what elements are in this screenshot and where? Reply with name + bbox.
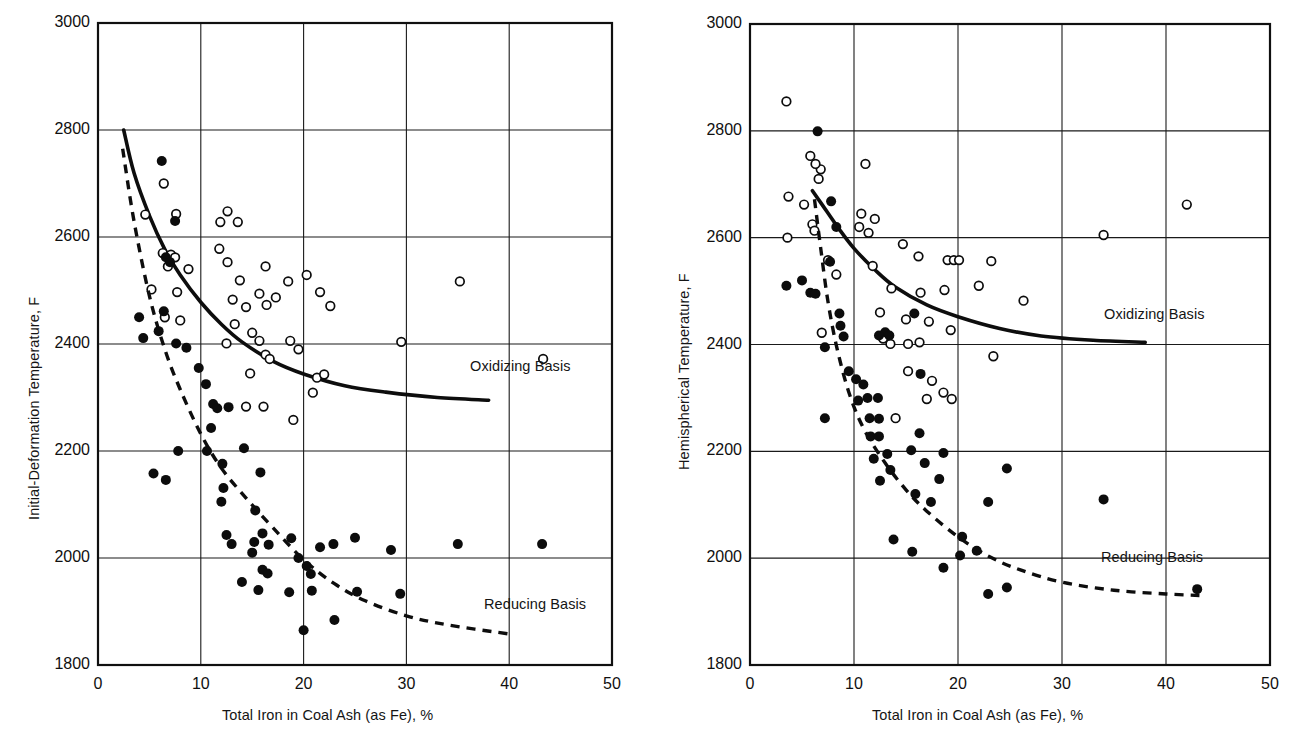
data-point-filled bbox=[395, 589, 405, 599]
data-point-filled bbox=[874, 431, 884, 441]
x-tick-label: 50 bbox=[1250, 675, 1290, 693]
data-point-filled bbox=[781, 281, 791, 291]
data-point-filled bbox=[249, 537, 259, 547]
data-point-filled bbox=[972, 546, 982, 556]
data-point-open bbox=[246, 369, 255, 378]
data-point-filled bbox=[255, 467, 265, 477]
y-axis-label-left: Initial-Deformation Temperature, F bbox=[26, 297, 42, 520]
data-point-open bbox=[259, 402, 268, 411]
data-point-filled bbox=[237, 577, 247, 587]
chart-panel-left: Initial-Deformation Temperature, F Total… bbox=[0, 0, 648, 746]
data-point-filled bbox=[875, 476, 885, 486]
data-point-filled bbox=[863, 393, 873, 403]
data-point-open bbox=[159, 179, 168, 188]
data-point-open bbox=[814, 175, 823, 184]
data-point-filled bbox=[1002, 463, 1012, 473]
data-point-open bbox=[987, 257, 996, 266]
data-point-filled bbox=[957, 532, 967, 542]
data-point-filled bbox=[1099, 494, 1109, 504]
data-point-open bbox=[316, 288, 325, 297]
data-point-filled bbox=[853, 396, 863, 406]
data-point-filled bbox=[386, 545, 396, 555]
x-tick-label: 50 bbox=[592, 675, 632, 693]
data-point-open bbox=[940, 286, 949, 295]
data-point-filled bbox=[910, 489, 920, 499]
data-point-open bbox=[783, 233, 792, 242]
data-point-open bbox=[255, 289, 264, 298]
data-point-filled bbox=[202, 446, 212, 456]
scatter-plot-right bbox=[647, 0, 1295, 746]
data-point-filled bbox=[869, 454, 879, 464]
data-point-open bbox=[899, 240, 908, 249]
data-point-filled bbox=[253, 585, 263, 595]
data-point-filled bbox=[826, 196, 836, 206]
data-point-filled bbox=[884, 330, 894, 340]
data-point-open bbox=[891, 414, 900, 423]
data-point-open bbox=[284, 277, 293, 286]
y-tick-label: 2400 bbox=[680, 335, 742, 353]
data-point-filled bbox=[284, 587, 294, 597]
x-tick-label: 30 bbox=[386, 675, 426, 693]
data-point-filled bbox=[218, 483, 228, 493]
data-point-open bbox=[946, 326, 955, 335]
chart-panel-right bbox=[647, 0, 1295, 746]
data-point-open bbox=[989, 352, 998, 361]
data-point-filled bbox=[328, 539, 338, 549]
y-tick-label: 2800 bbox=[28, 120, 90, 138]
data-point-open bbox=[902, 315, 911, 324]
data-point-filled bbox=[882, 449, 892, 459]
data-point-open bbox=[236, 276, 245, 285]
x-tick-label: 20 bbox=[938, 675, 978, 693]
y-tick-label: 2200 bbox=[28, 441, 90, 459]
data-point-open bbox=[242, 303, 251, 312]
data-point-filled bbox=[834, 309, 844, 319]
data-point-filled bbox=[889, 534, 899, 544]
data-point-filled bbox=[173, 446, 183, 456]
data-point-open bbox=[887, 284, 896, 293]
data-point-open bbox=[456, 277, 465, 286]
data-point-filled bbox=[1192, 584, 1202, 594]
data-point-open bbox=[811, 160, 820, 169]
data-point-open bbox=[915, 338, 924, 347]
data-point-filled bbox=[154, 326, 164, 336]
data-point-filled bbox=[212, 403, 222, 413]
data-point-filled bbox=[825, 257, 835, 267]
data-point-open bbox=[326, 302, 335, 311]
data-point-open bbox=[262, 301, 271, 310]
data-point-filled bbox=[329, 615, 339, 625]
data-point-filled bbox=[453, 539, 463, 549]
data-point-filled bbox=[938, 448, 948, 458]
data-point-open bbox=[1183, 200, 1192, 209]
data-point-filled bbox=[257, 528, 267, 538]
data-point-filled bbox=[264, 540, 274, 550]
data-point-open bbox=[294, 345, 303, 354]
data-point-open bbox=[222, 339, 231, 348]
data-point-open bbox=[817, 328, 826, 337]
data-point-filled bbox=[820, 342, 830, 352]
series-annotation-reducing-left: Reducing Basis bbox=[484, 596, 586, 612]
data-point-open bbox=[871, 215, 880, 224]
x-tick-label: 40 bbox=[1146, 675, 1186, 693]
data-point-open bbox=[223, 207, 232, 216]
data-point-filled bbox=[916, 369, 926, 379]
data-point-filled bbox=[1002, 583, 1012, 593]
data-point-open bbox=[302, 271, 311, 280]
data-point-filled bbox=[286, 533, 296, 543]
data-point-filled bbox=[227, 539, 237, 549]
y-tick-label: 2400 bbox=[28, 334, 90, 352]
data-point-filled bbox=[181, 343, 191, 353]
data-point-filled bbox=[250, 505, 260, 515]
y-tick-label: 2600 bbox=[28, 227, 90, 245]
data-point-filled bbox=[813, 126, 823, 136]
x-tick-label: 0 bbox=[730, 675, 770, 693]
data-point-filled bbox=[811, 289, 821, 299]
x-axis-label-left: Total Iron in Coal Ash (as Fe), % bbox=[222, 707, 433, 723]
data-point-filled bbox=[350, 533, 360, 543]
data-point-open bbox=[855, 223, 864, 232]
y-tick-label: 1800 bbox=[680, 655, 742, 673]
data-point-open bbox=[1099, 231, 1108, 240]
series-annotation-oxidizing-left: Oxidizing Basis bbox=[470, 358, 571, 374]
data-point-filled bbox=[138, 333, 148, 343]
x-tick-label: 10 bbox=[181, 675, 221, 693]
data-point-open bbox=[904, 367, 913, 376]
